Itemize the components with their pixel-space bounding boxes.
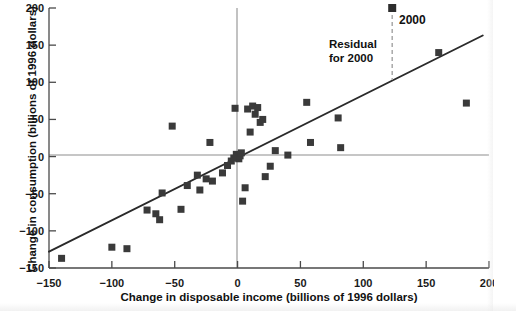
data-point — [156, 216, 163, 223]
data-point — [209, 178, 216, 185]
data-point — [254, 104, 261, 111]
data-point — [144, 207, 151, 214]
adjacent-column-text: CaDRThth — [494, 0, 516, 311]
y-tick-label: −50 — [4, 188, 44, 199]
page-bottom-shading — [0, 303, 516, 311]
residual-annotation-line2: for 2000 — [329, 52, 373, 64]
y-tick-label: 100 — [4, 77, 44, 88]
data-point — [194, 172, 201, 179]
data-point — [123, 245, 130, 252]
data-point — [247, 129, 254, 136]
regression-line — [49, 35, 483, 251]
data-point — [232, 105, 239, 112]
data-point — [262, 173, 269, 180]
data-point — [335, 114, 342, 121]
x-tick-label: −50 — [165, 278, 184, 289]
y-axis-title: Change in consumption (billions of 1996 … — [26, 0, 38, 289]
data-point — [206, 139, 213, 146]
data-point — [238, 149, 245, 156]
data-point — [307, 139, 314, 146]
y-tick-label: −150 — [4, 263, 44, 274]
data-point — [267, 163, 274, 170]
data-point — [219, 169, 226, 176]
legend-label-2000: 2000 — [399, 13, 426, 27]
data-point-2000 — [388, 4, 396, 12]
x-tick-label: −150 — [37, 278, 62, 289]
data-point — [178, 206, 185, 213]
data-point — [184, 182, 191, 189]
page-edge-shading — [487, 0, 493, 311]
x-tick-label: 50 — [294, 278, 306, 289]
data-point — [239, 198, 246, 205]
data-point — [242, 184, 249, 191]
x-tick-label: 150 — [417, 278, 435, 289]
data-point — [169, 123, 176, 130]
chart-canvas — [0, 0, 516, 311]
data-point — [159, 189, 166, 196]
chart-page: −150−100−50050100150200 −150−100−5005010… — [0, 0, 516, 311]
data-point — [337, 144, 344, 151]
x-tick-label: 0 — [235, 278, 241, 289]
y-tick-label: 50 — [4, 114, 44, 125]
y-tick-label: 0 — [4, 151, 44, 162]
y-tick-label: −100 — [4, 225, 44, 236]
y-tick-label: 200 — [4, 3, 44, 14]
data-point — [284, 152, 291, 159]
data-point — [58, 255, 65, 262]
y-tick-label: 150 — [4, 40, 44, 51]
x-tick-label: 100 — [354, 278, 372, 289]
data-point — [252, 111, 259, 118]
data-point — [463, 100, 470, 107]
y-axis-ticks — [49, 8, 56, 268]
scatter-plot: −150−100−50050100150200 −150−100−5005010… — [0, 0, 516, 311]
data-point — [435, 49, 442, 56]
x-axis-ticks — [49, 261, 489, 268]
data-point — [303, 99, 310, 106]
x-tick-label: −100 — [99, 278, 124, 289]
data-point — [108, 244, 115, 251]
residual-annotation-label: Residual for 2000 — [329, 37, 377, 66]
x-axis-title: Change in disposable income (billions of… — [49, 291, 489, 303]
data-point — [272, 147, 279, 154]
data-point — [196, 187, 203, 194]
data-point — [259, 116, 266, 123]
residual-annotation-line1: Residual — [329, 38, 377, 50]
data-point — [203, 175, 210, 182]
